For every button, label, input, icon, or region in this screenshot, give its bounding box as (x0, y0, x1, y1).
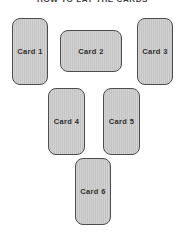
card-6-label: Card 6 (80, 187, 106, 196)
card-3-label: Card 3 (142, 47, 168, 56)
diagram-title: HOW TO LAY THE CARDS (0, 0, 185, 4)
card-slot-1: Card 1 (12, 18, 48, 85)
card-slot-2: Card 2 (60, 30, 122, 72)
card-5-label: Card 5 (109, 117, 135, 126)
card-1-label: Card 1 (17, 47, 43, 56)
card-spread-diagram: HOW TO LAY THE CARDS Card 1 Card 2 Card … (0, 0, 185, 237)
card-slot-5: Card 5 (103, 88, 140, 155)
card-4-label: Card 4 (54, 117, 80, 126)
card-slot-6: Card 6 (75, 158, 111, 225)
card-2-label: Card 2 (78, 47, 104, 56)
card-slot-4: Card 4 (48, 88, 85, 155)
card-slot-3: Card 3 (137, 18, 173, 85)
